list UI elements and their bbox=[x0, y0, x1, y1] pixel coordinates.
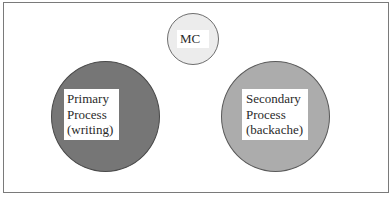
primary-label-line-2: Process bbox=[67, 107, 119, 123]
secondary-process-label: Secondary Process (backache) bbox=[242, 89, 308, 140]
mc-label-line-1: MC bbox=[180, 31, 209, 47]
secondary-label-line-2: Process bbox=[246, 107, 308, 123]
primary-label-line-3: (writing) bbox=[67, 122, 119, 138]
mc-label: MC bbox=[177, 30, 209, 48]
primary-process-label: Primary Process (writing) bbox=[64, 89, 119, 140]
secondary-label-line-3: (backache) bbox=[246, 122, 308, 138]
primary-label-line-1: Primary bbox=[67, 91, 119, 107]
secondary-label-line-1: Secondary bbox=[246, 91, 308, 107]
